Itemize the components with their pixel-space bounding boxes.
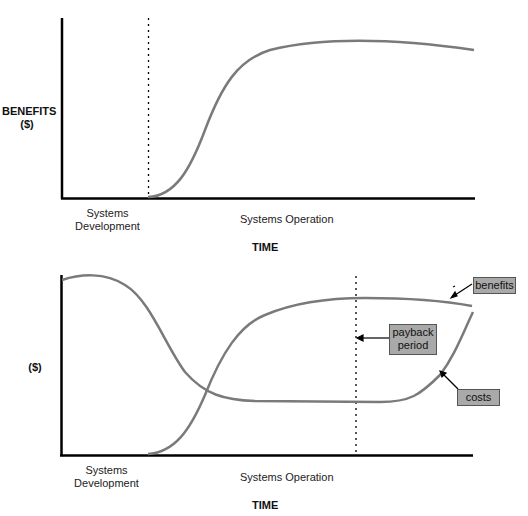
bottom-phase-operation-label: Systems Operation: [240, 471, 360, 484]
top-benefits-curve: [148, 41, 474, 197]
top-phase-development-label: Systems Development: [70, 207, 145, 233]
benefits-arrowhead-icon: [451, 292, 457, 298]
top-y-label-line2: ($): [2, 118, 52, 131]
top-y-label-line1: BENEFITS: [2, 105, 52, 118]
bottom-phase-dev-line2: Development: [69, 477, 144, 490]
payback-line1: payback: [390, 326, 436, 339]
costs-callout: costs: [457, 389, 500, 406]
bottom-graph: [60, 275, 473, 456]
bottom-benefits-curve: [148, 298, 472, 454]
payback-period-callout: payback period: [389, 324, 437, 355]
bottom-phase-development-label: Systems Development: [69, 464, 144, 490]
top-y-axis-label: BENEFITS ($): [2, 105, 52, 131]
top-phase-operation-label: Systems Operation: [240, 213, 360, 226]
top-graph: [61, 18, 475, 199]
payback-line2: period: [390, 339, 436, 352]
bottom-y-axis-label: ($): [20, 361, 50, 374]
bottom-x-axis-label: TIME: [252, 499, 292, 512]
diagram-canvas: [0, 0, 528, 516]
benefits-callout: benefits: [473, 277, 516, 294]
payback-arrowhead-icon: [357, 335, 363, 341]
top-phase-dev-line1: Systems: [70, 207, 145, 220]
top-phase-dev-line2: Development: [70, 220, 145, 233]
benefits-arrow-stub: [453, 286, 455, 287]
top-x-axis-label: TIME: [252, 241, 292, 254]
bottom-phase-dev-line1: Systems: [69, 464, 144, 477]
